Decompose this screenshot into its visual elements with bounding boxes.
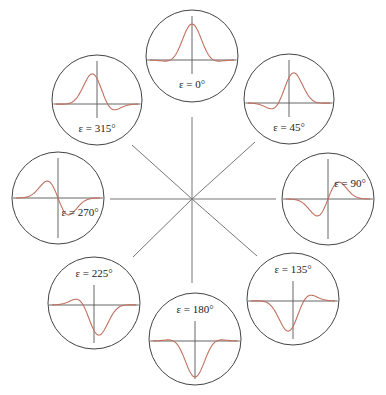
panel-eps-0: ε = 0°: [146, 10, 238, 102]
panel-eps-135: ε = 135°: [247, 253, 339, 345]
spoke-down-right: [192, 199, 257, 256]
panel-eps-45: ε = 45°: [244, 54, 334, 144]
spoke-down-left: [133, 199, 192, 257]
central-star-spokes: [110, 117, 276, 283]
phase-label: ε = 0°: [179, 78, 205, 90]
phase-label: ε = 45°: [273, 121, 305, 133]
phase-label: ε = 90°: [334, 177, 366, 189]
panel-eps-270: ε = 270°: [12, 152, 104, 244]
phase-diagram-canvas: ε = 0°ε = 45°ε = 90°ε = 135°ε = 180°ε = …: [0, 0, 386, 395]
panel-eps-180: ε = 180°: [149, 293, 241, 385]
panel-eps-315: ε = 315°: [52, 55, 142, 145]
phase-label: ε = 180°: [176, 303, 213, 315]
phase-label: ε = 315°: [78, 122, 115, 134]
spoke-up-right: [192, 142, 255, 199]
phase-label: ε = 225°: [75, 267, 112, 279]
panel-eps-225: ε = 225°: [48, 257, 140, 349]
phase-diagram: ε = 0°ε = 45°ε = 90°ε = 135°ε = 180°ε = …: [0, 0, 386, 395]
phase-label: ε = 270°: [61, 206, 98, 218]
panel-eps-90: ε = 90°: [282, 153, 374, 245]
phase-label: ε = 135°: [274, 263, 311, 275]
spoke-up-left: [132, 145, 192, 199]
